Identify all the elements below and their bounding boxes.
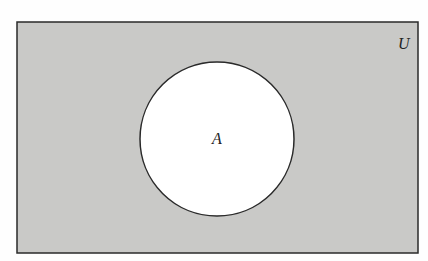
set-a-label: A	[211, 130, 222, 147]
universe-label: U	[398, 35, 411, 52]
venn-diagram: U A	[0, 0, 428, 261]
